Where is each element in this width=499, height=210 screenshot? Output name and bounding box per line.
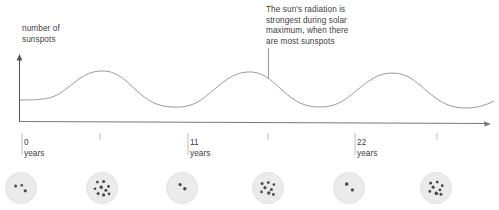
sun-disk-3 (167, 173, 198, 204)
sun-disk-6 (421, 173, 452, 204)
x-axis-ticks (22, 133, 437, 155)
sunspot-cycle-curve (20, 71, 494, 108)
x-axis (20, 121, 492, 126)
sun-disk-5 (334, 173, 365, 204)
figure-canvas (0, 0, 499, 210)
sun-disk-2 (87, 173, 118, 204)
sun-disk-4 (253, 173, 284, 204)
sunspot-cycle-figure: number of sunspots The sun's radiation i… (0, 0, 499, 210)
sun-disk-1 (6, 173, 37, 204)
sun-disk-row (6, 173, 452, 204)
y-axis (17, 54, 23, 122)
